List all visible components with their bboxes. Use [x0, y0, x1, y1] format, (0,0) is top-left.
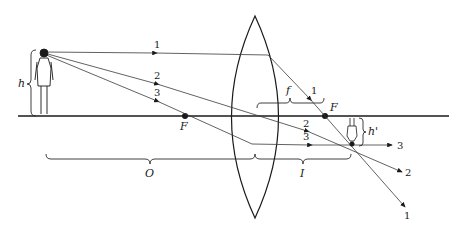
object-height-label: h	[18, 77, 25, 90]
image-distance-label: I	[299, 167, 305, 180]
ray-1-label-end: 1	[404, 210, 410, 221]
ray-3-label-end: 3	[397, 140, 403, 151]
ray-1-label-top: 1	[154, 39, 160, 50]
focal-label-left: F	[179, 120, 188, 133]
ray-3-label-after-lens: 3	[303, 131, 309, 142]
image-distance-brace	[255, 154, 351, 164]
focal-label-right: F	[329, 101, 338, 114]
object-distance-label: O	[145, 167, 154, 180]
ray-2-label-after-lens: 2	[303, 118, 309, 129]
ray-2-label-top: 2	[154, 70, 160, 81]
focal-length-brace	[257, 98, 324, 108]
ray-2-label-end: 2	[405, 167, 411, 178]
ray-3-label-top: 3	[154, 87, 160, 98]
lens-ray-diagram: F F 1 1 1 2 2 2 3 3 3	[0, 0, 449, 227]
image-height-brace	[359, 118, 366, 146]
object-distance-brace	[46, 154, 255, 164]
ray-2	[44, 53, 402, 172]
ray-1-label-after-lens: 1	[311, 85, 317, 96]
image-inverted-person-icon	[347, 118, 357, 146]
object-height-brace	[27, 50, 36, 116]
object-person-icon	[35, 49, 53, 114]
image-height-label: h'	[368, 125, 378, 138]
diagram-canvas: F F 1 1 1 2 2 2 3 3 3	[0, 0, 449, 227]
convex-lens	[232, 16, 279, 218]
focal-length-label: f	[285, 84, 292, 97]
